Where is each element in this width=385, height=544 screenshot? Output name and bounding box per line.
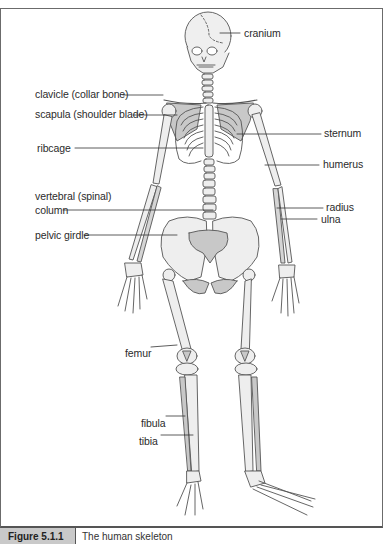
label-vertebral-2: column — [35, 204, 68, 216]
left-leg — [163, 279, 203, 515]
figure-frame: cranium clavicle (collar bone) scapula (… — [0, 8, 383, 528]
label-clavicle: clavicle (collar bone) — [35, 88, 129, 100]
label-femur: femur — [125, 347, 151, 359]
label-tibia: tibia — [139, 435, 158, 447]
label-cranium: cranium — [244, 27, 281, 39]
label-ulna: ulna — [321, 213, 340, 225]
label-pelvic-girdle: pelvic girdle — [35, 229, 89, 241]
label-fibula: fibula — [141, 417, 166, 429]
label-radius: radius — [326, 201, 354, 213]
figure-number: Figure 5.1.1 — [0, 528, 76, 544]
figure-caption: Figure 5.1.1 The human skeleton — [0, 528, 385, 544]
skeleton-illustration — [1, 9, 384, 529]
figure-caption-text: The human skeleton — [82, 531, 173, 542]
right-leg — [235, 279, 315, 515]
label-ribcage: ribcage — [37, 142, 71, 154]
right-arm — [248, 104, 299, 316]
pelvis — [161, 217, 259, 294]
label-humerus: humerus — [323, 158, 363, 170]
label-scapula: scapula (shoulder blade) — [35, 108, 148, 120]
label-sternum: sternum — [324, 127, 361, 139]
label-vertebral-1: vertebral (spinal) — [35, 190, 111, 202]
skull — [185, 12, 231, 73]
